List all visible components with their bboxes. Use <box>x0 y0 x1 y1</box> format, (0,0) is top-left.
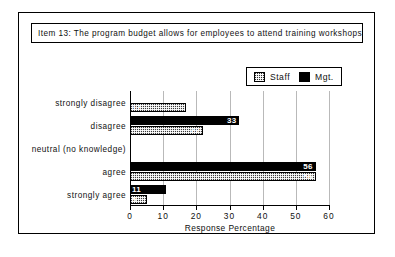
y-axis-line <box>130 91 131 206</box>
x-tick-label: 0 <box>127 211 133 221</box>
y-category-label: agree <box>103 167 126 176</box>
bar-chart-plot: 1733225656115 0102030405060 strongly dis… <box>19 13 376 235</box>
bar-staff: 22 <box>130 126 203 135</box>
x-tick <box>130 206 131 210</box>
bar-mgt: 56 <box>130 162 316 171</box>
gridline <box>196 91 197 205</box>
bar-value-label: 22 <box>190 126 200 135</box>
bar-staff: 17 <box>130 103 186 112</box>
bar-staff: 56 <box>130 172 316 181</box>
gridline <box>230 91 231 205</box>
gridline <box>296 91 297 205</box>
bar-value-label: 11 <box>132 185 141 194</box>
figure-frame: Item 13: The program budget allows for e… <box>18 12 375 234</box>
bar-mgt: 33 <box>130 116 239 125</box>
x-tick <box>230 206 231 210</box>
x-tick-label: 50 <box>290 211 301 221</box>
x-tick-label: 60 <box>323 211 334 221</box>
y-category-label: strongly disagree <box>55 98 126 107</box>
bar-value-label: 56 <box>303 172 313 181</box>
x-tick <box>296 206 297 210</box>
bar-staff: 5 <box>130 195 147 204</box>
x-tick <box>263 206 264 210</box>
x-tick-label: 10 <box>157 211 168 221</box>
x-tick <box>163 206 164 210</box>
gridline <box>329 91 330 205</box>
bar-value-label: 33 <box>227 116 237 125</box>
x-axis-title: Response Percentage <box>130 223 330 233</box>
bar-mgt: 11 <box>130 185 166 194</box>
x-tick-label: 40 <box>257 211 268 221</box>
gridline <box>263 91 264 205</box>
x-tick <box>329 206 330 210</box>
x-tick-label: 30 <box>224 211 235 221</box>
x-tick-label: 20 <box>191 211 202 221</box>
x-tick <box>196 206 197 210</box>
y-category-label: strongly agree <box>67 190 126 199</box>
y-category-label: disagree <box>91 121 126 130</box>
bar-value-label: 5 <box>132 195 137 204</box>
y-category-label: neutral (no knowledge) <box>32 144 126 153</box>
bar-value-label: 56 <box>303 162 313 171</box>
bar-value-label: 17 <box>132 103 142 112</box>
